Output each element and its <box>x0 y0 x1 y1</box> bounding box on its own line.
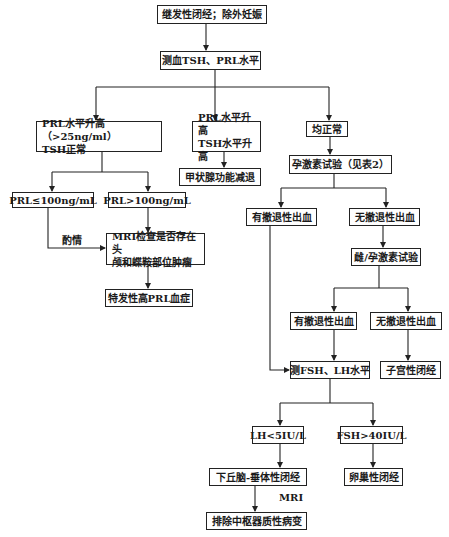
node-secondary-amenorrhea: 继发性闭经；除外妊娠 <box>157 5 267 24</box>
node-withdrawal-bleeding-1: 有撤退性出血 <box>246 208 317 226</box>
node-lh-lt-5: LH<5IU/L <box>252 426 304 444</box>
node-prl-gt-100: PRL>100ng/mL <box>108 192 186 208</box>
edge-label-mri: MRI <box>279 492 303 503</box>
edge-label-as-needed: 酌情 <box>62 232 82 247</box>
node-exclude-central-lesion: 排除中枢器质性病变 <box>206 512 307 530</box>
node-fsh-gt-40: FSH>40IU/L <box>340 426 403 444</box>
node-prl-high-tsh-normal: PRL水平升高（>25ng/ml） TSH正常 <box>36 121 162 152</box>
node-estrogen-progesterone-test: 雌/孕激素试验 <box>351 248 421 266</box>
node-measure-fsh-lh: 测FSH、LH水平 <box>290 361 370 379</box>
node-uterine-amenorrhea: 子宫性闭经 <box>380 361 441 379</box>
node-hypothalamic-pituitary-amenorrhea: 下丘脑-垂体性闭经 <box>209 468 307 486</box>
node-idiopathic-hyperprolactinemia: 特发性高PRL血症 <box>105 289 193 307</box>
node-withdrawal-bleeding-2: 有撤退性出血 <box>290 312 357 330</box>
node-measure-tsh-prl: 测血TSH、PRL水平 <box>160 51 261 70</box>
node-progesterone-test: 孕激素试验（见表2） <box>289 155 392 174</box>
node-prl-high-tsh-high: PRL水平升高 TSH水平升高 <box>192 121 261 152</box>
node-no-withdrawal-bleeding-1: 无撤退性出血 <box>349 208 420 226</box>
node-no-withdrawal-bleeding-2: 无撤退性出血 <box>370 312 442 330</box>
edge-n10-n17 <box>270 226 289 370</box>
connector-lines <box>0 0 449 537</box>
node-mri-check-tumor: MRI检查是否存在头 颅和蝶鞍部位肿瘤 <box>106 233 205 265</box>
node-all-normal: 均正常 <box>306 121 348 137</box>
node-ovarian-amenorrhea: 卵巢性闭经 <box>344 468 403 486</box>
node-prl-le-100: PRL≤100ng/mL <box>12 192 94 208</box>
node-hypothyroidism: 甲状腺功能减退 <box>179 168 261 186</box>
